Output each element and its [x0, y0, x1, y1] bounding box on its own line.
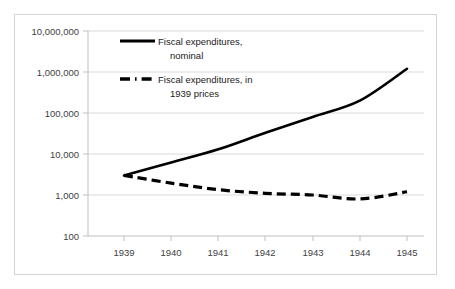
x-axis-ticks: [124, 236, 407, 241]
series-line-nominal: [124, 69, 407, 176]
y-axis-label-3: 10,000: [50, 149, 79, 160]
y-axis-ticks: [83, 31, 88, 236]
legend-item-1-line1: Fiscal expenditures, in: [158, 74, 253, 85]
y-axis-label-4: 1,000: [55, 190, 79, 201]
legend-item-1-line2: 1939 prices: [170, 88, 219, 99]
x-axis-label-1942: 1942: [254, 247, 275, 258]
legend: Fiscal expenditures, nominal Fiscal expe…: [120, 36, 253, 99]
x-axis-label-1939: 1939: [113, 247, 134, 258]
y-axis-labels: 10,000,000 1,000,000 100,000 10,000 1,00…: [31, 26, 79, 242]
x-axis-label-1943: 1943: [302, 247, 323, 258]
chart-plot-area: 10,000,000 1,000,000 100,000 10,000 1,00…: [0, 0, 455, 289]
x-axis-labels: 1939 1940 1941 1942 1943 1944 1945: [113, 247, 417, 258]
legend-item-0-line2: nominal: [170, 50, 203, 61]
y-axis-label-0: 10,000,000: [31, 26, 79, 37]
y-axis-label-5: 100: [63, 231, 79, 242]
legend-item-0-line1: Fiscal expenditures,: [158, 36, 242, 47]
chart-container: 10,000,000 1,000,000 100,000 10,000 1,00…: [0, 0, 455, 289]
y-axis-label-1: 1,000,000: [37, 67, 79, 78]
x-axis-label-1941: 1941: [207, 247, 228, 258]
x-axis-label-1944: 1944: [349, 247, 370, 258]
x-axis-label-1940: 1940: [160, 247, 181, 258]
x-axis-label-1945: 1945: [396, 247, 417, 258]
y-axis-label-2: 100,000: [45, 108, 79, 119]
